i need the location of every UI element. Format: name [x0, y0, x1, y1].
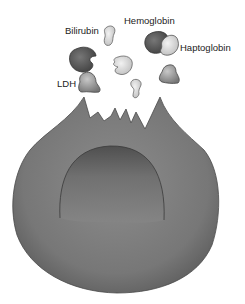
haptoglobin-label: Haptoglobin [180, 43, 231, 53]
ldh-label: LDH [57, 79, 76, 89]
red-blood-cell [13, 97, 219, 293]
light-molecule-center [114, 56, 133, 75]
small-light-molecule [131, 79, 141, 97]
mid-molecule-right [159, 65, 179, 84]
bilirubin-molecule [104, 26, 115, 45]
hemolysis-diagram: Bilirubin Hemoglobin Haptoglobin LDH [0, 0, 245, 304]
bilirubin-label: Bilirubin [65, 26, 99, 36]
ldh-molecule [79, 72, 100, 92]
dark-molecule-left [70, 47, 97, 72]
hemoglobin-label: Hemoglobin [124, 16, 175, 26]
